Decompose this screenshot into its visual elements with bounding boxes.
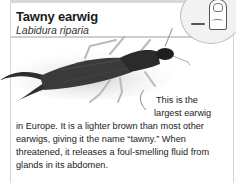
knuckle-line — [212, 19, 223, 23]
description-line-2: largest earwig — [154, 107, 211, 120]
callout-leader-line — [136, 90, 150, 112]
description-line-1: This is the — [156, 94, 198, 107]
card-header: Tawny earwig Labidura riparia — [11, 3, 181, 36]
thumb-scale-icon — [209, 0, 227, 30]
species-title: Tawny earwig — [16, 9, 98, 24]
thumbnail-icon — [213, 3, 223, 12]
species-latin-name: Labidura riparia — [16, 24, 89, 36]
life-size-earwig-icon — [191, 23, 205, 25]
description-body: in Europe. It is a lighter brown than mo… — [16, 120, 226, 172]
